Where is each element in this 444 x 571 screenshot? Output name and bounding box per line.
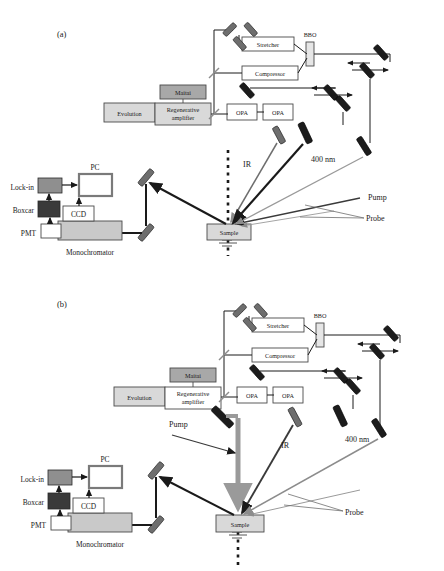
- optical-setup-svg: (a) Evolution Maitai Regenerative amplif…: [0, 0, 444, 571]
- ir-label-b: IR: [281, 441, 290, 450]
- regen-amp-label-1-b: Regenerative: [177, 390, 210, 397]
- bbo-label: BBO: [304, 31, 317, 38]
- sample-label: Sample: [220, 229, 239, 236]
- probe-label-a: Probe: [366, 214, 385, 223]
- monochromator-label: Monochromator: [66, 248, 115, 257]
- pc-monitor-b[interactable]: [89, 466, 122, 488]
- regen-amp-label-2-b: amplifier: [182, 398, 205, 405]
- lockin-box[interactable]: [38, 178, 62, 193]
- pump-label-a: Pump: [368, 193, 387, 202]
- opa-label-2-b: OPA: [282, 392, 294, 399]
- opa-label-1-b: OPA: [246, 392, 258, 399]
- boxcar-box-b[interactable]: [48, 493, 70, 509]
- lockin-box-b[interactable]: [48, 470, 72, 485]
- opa-label-1: OPA: [236, 109, 248, 116]
- sample-label-b: Sample: [231, 521, 250, 528]
- maitai-label-b: Maitai: [185, 372, 201, 379]
- opa-label-2: OPA: [272, 109, 284, 116]
- monochromator-box[interactable]: [58, 221, 122, 240]
- evolution-label-b: Evolution: [127, 394, 151, 401]
- probe-label-b: Probe: [345, 508, 364, 517]
- figure-container: (a) Evolution Maitai Regenerative amplif…: [0, 0, 444, 571]
- boxcar-label-b: Boxcar: [23, 498, 45, 507]
- ccd-label-b: CCD: [81, 502, 97, 511]
- stretcher-label: Stretcher: [257, 41, 279, 48]
- pc-monitor[interactable]: [79, 174, 112, 196]
- regen-amp-label-2: amplifier: [172, 114, 195, 121]
- lockin-label-b: Lock-in: [21, 475, 45, 484]
- 400nm-label-b: 400 nm: [345, 435, 370, 444]
- bbo-label-b: BBO: [314, 312, 327, 319]
- monochromator-box-b[interactable]: [68, 513, 132, 532]
- lockin-label: Lock-in: [11, 183, 35, 192]
- boxcar-box[interactable]: [38, 201, 60, 217]
- pc-label-b: PC: [100, 455, 109, 464]
- regen-amp-label-1: Regenerative: [167, 106, 200, 113]
- pmt-label-b: PMT: [31, 521, 47, 530]
- pc-label: PC: [90, 163, 99, 172]
- monochromator-label-b: Monochromator: [76, 540, 125, 549]
- panel-b-label: (b): [57, 299, 67, 309]
- pmt-label: PMT: [21, 229, 37, 238]
- ccd-label: CCD: [71, 210, 87, 219]
- bbo-crystal-b[interactable]: [316, 323, 324, 347]
- evolution-label: Evolution: [117, 110, 141, 117]
- panel-a-label: (a): [57, 29, 67, 39]
- compressor-label: Compressor: [255, 70, 285, 77]
- compressor-label-b: Compressor: [265, 352, 295, 359]
- pmt-box-b[interactable]: [51, 516, 71, 530]
- pump-label-b: Pump: [169, 420, 188, 429]
- stretcher-label-b: Stretcher: [267, 322, 289, 329]
- boxcar-label: Boxcar: [13, 206, 35, 215]
- 400nm-label-a: 400 nm: [311, 155, 336, 164]
- pmt-box[interactable]: [41, 224, 61, 238]
- bbo-crystal[interactable]: [306, 42, 314, 66]
- maitai-label: Maitai: [175, 89, 191, 96]
- ir-label-a: IR: [243, 160, 252, 169]
